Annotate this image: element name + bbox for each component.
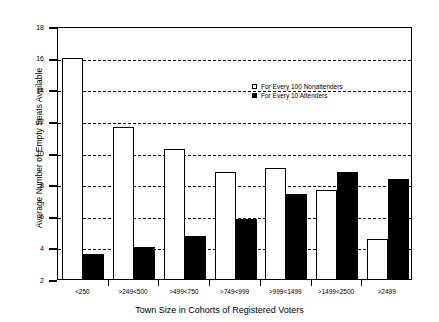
gridline	[58, 123, 411, 124]
x-axis-tick	[260, 280, 261, 286]
bar	[113, 127, 134, 279]
plot-area	[57, 27, 412, 280]
y-axis-tick	[49, 122, 57, 124]
y-axis-tick	[49, 90, 57, 92]
y-axis-tick	[49, 59, 57, 61]
bar	[316, 190, 337, 279]
legend-item-attenders: For Every 10 Attenders	[252, 91, 343, 100]
bar	[286, 194, 307, 279]
y-axis-tick-label: 14	[4, 87, 44, 94]
bar	[236, 219, 257, 279]
bar	[388, 179, 409, 279]
bar	[265, 168, 286, 279]
y-axis-tick	[49, 217, 57, 219]
y-axis-tick-label: 2	[4, 277, 44, 284]
x-axis-tick-label: >999<1499	[269, 288, 302, 296]
legend-label-attenders: For Every 10 Attenders	[261, 91, 327, 100]
y-axis-tick-label: 10	[4, 150, 44, 157]
y-axis-line	[57, 27, 58, 280]
bar	[367, 239, 388, 279]
gridline	[58, 91, 411, 92]
x-axis-tick	[311, 280, 312, 286]
x-axis-tick-label: <250	[75, 288, 90, 296]
x-axis-tick-label: >499<750	[169, 288, 198, 296]
bar-chart: Average Number of Empty Seats Available …	[0, 0, 439, 322]
legend-item-nonattenders: For Every 100 Nonattenders	[252, 82, 343, 91]
y-axis-tick-label: 12	[4, 118, 44, 125]
bar	[62, 58, 83, 279]
filled-square-icon	[252, 93, 257, 98]
x-axis-tick-label: >249<500	[118, 288, 147, 296]
y-axis-tick-label: 4	[4, 245, 44, 252]
y-axis-tick-label: 8	[4, 182, 44, 189]
y-axis-tick	[49, 280, 57, 282]
bar	[83, 254, 104, 279]
y-axis-tick	[49, 185, 57, 187]
chart-legend: For Every 100 Nonattenders For Every 10 …	[252, 82, 343, 100]
y-axis-tick	[49, 154, 57, 156]
legend-label-nonattenders: For Every 100 Nonattenders	[261, 82, 343, 91]
x-axis-tick	[108, 280, 109, 286]
y-axis-tick-label: 18	[4, 24, 44, 31]
x-axis-tick-label: >749<999	[220, 288, 249, 296]
x-axis-tick	[361, 280, 362, 286]
open-square-icon	[252, 84, 257, 89]
x-axis-tick	[209, 280, 210, 286]
gridline	[58, 60, 411, 61]
bar	[164, 149, 185, 279]
y-axis-tick	[49, 248, 57, 250]
x-axis-tick-label: >2499	[378, 288, 396, 296]
x-axis-tick	[158, 280, 159, 286]
bar	[134, 247, 155, 279]
x-axis-tick-label: >1499<2500	[318, 288, 355, 296]
y-axis-tick	[49, 27, 57, 29]
gridline	[58, 155, 411, 156]
bar	[215, 172, 236, 279]
bar	[337, 172, 358, 279]
x-axis-title: Town Size in Cohorts of Registered Voter…	[0, 305, 439, 315]
bar	[185, 236, 206, 279]
y-axis-tick-label: 6	[4, 213, 44, 220]
y-axis-tick-label: 16	[4, 55, 44, 62]
